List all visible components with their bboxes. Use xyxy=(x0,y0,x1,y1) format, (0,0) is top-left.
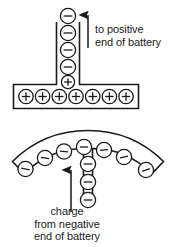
plus-charge xyxy=(69,89,83,103)
minus-charge xyxy=(60,42,75,57)
label-to-positive-end: to positive end of battery xyxy=(95,23,161,48)
label-line: end of battery xyxy=(3,230,131,243)
label-line: to positive xyxy=(95,23,161,36)
label-line: end of battery xyxy=(95,36,161,49)
plus-charge xyxy=(119,89,133,103)
charge-flow-diagram: to positive end of battery charge from n… xyxy=(0,0,176,247)
minus-charge xyxy=(60,25,75,40)
minus-charge xyxy=(96,142,111,157)
plus-charge xyxy=(52,89,66,103)
label-line: from negative xyxy=(3,218,131,231)
minus-charge xyxy=(76,139,91,154)
plus-charge xyxy=(61,75,74,88)
minus-charge xyxy=(80,174,95,189)
minus-charge xyxy=(116,149,131,164)
label-charge-from-negative-end: charge from negative end of battery xyxy=(3,205,131,243)
plus-charge xyxy=(35,89,49,103)
minus-charge xyxy=(80,156,95,171)
minus-charge xyxy=(60,8,75,23)
curved-stem-charge-group xyxy=(80,156,95,207)
minus-charge xyxy=(18,161,33,176)
minus-charge xyxy=(56,144,71,159)
minus-charge xyxy=(37,150,52,165)
plus-charge xyxy=(19,89,33,103)
plus-charge xyxy=(102,89,116,103)
minus-charge xyxy=(60,59,75,74)
label-line: charge xyxy=(3,205,131,218)
plus-charge xyxy=(86,89,100,103)
minus-charge xyxy=(138,162,153,177)
